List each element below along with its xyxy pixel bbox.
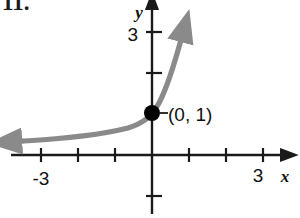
curve-path: [24, 36, 182, 141]
exponential-curve: [16, 36, 182, 142]
point-annotation-label: (0, 1): [168, 104, 212, 125]
figure-container: 11.: [0, 0, 300, 218]
x-axis-label: x: [280, 167, 290, 186]
point-marker-0-1: [144, 105, 160, 121]
x-axis: [11, 148, 282, 162]
y-tick-label-3: 3: [127, 24, 138, 45]
coordinate-graph: (0, 1) 3 -3 3 y x: [0, 0, 300, 218]
x-tick-label-minus3: -3: [33, 168, 50, 189]
x-tick-label-3: 3: [253, 165, 264, 186]
curve-left-arrow: [16, 141, 24, 142]
y-axis-label: y: [133, 3, 143, 22]
